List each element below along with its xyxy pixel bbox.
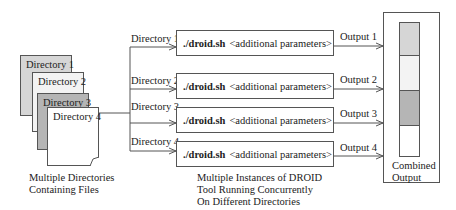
params-2: <additional parameters> [229,81,332,92]
command-4: ./droid.sh [183,149,225,160]
output-segment-2 [400,56,419,91]
directories-caption-line1: Multiple Directories [29,172,114,184]
combined-caption-line1: Combined [392,160,436,172]
params-3: <additional parameters> [229,115,332,126]
directory-2-label: Directory 2 [38,76,86,87]
output-label-3: Output 3 [340,108,377,120]
combined-caption-line2: Output [392,172,421,184]
output-segment-4 [400,126,419,156]
command-1: ./droid.sh [183,38,225,49]
output-segment-3 [400,91,419,126]
instances-caption-line2: Tool Running Concurrently [197,184,313,196]
output-stack [399,22,420,157]
directories-caption-line2: Containing Files [29,184,99,196]
command-2: ./droid.sh [183,81,225,92]
output-label-2: Output 2 [340,74,377,86]
input-label-3: Directory 3 [131,101,179,113]
input-label-2: Directory 2 [131,75,179,87]
command-3: ./droid.sh [183,115,225,126]
instances-caption-line3: On Different Directories [197,196,300,208]
droid-instance-2: ./droid.sh <additional parameters> [176,73,334,99]
page-curl-icon [90,157,99,166]
input-label-1: Directory 1 [131,33,179,45]
params-4: <additional parameters> [229,149,332,160]
directory-4-page: Directory 4 [47,107,99,166]
droid-instance-1: ./droid.sh <additional parameters> [176,30,334,56]
droid-instance-3: ./droid.sh <additional parameters> [176,107,334,133]
directory-4-label: Directory 4 [53,111,101,122]
directory-1-label: Directory 1 [26,59,74,70]
output-label-1: Output 1 [340,31,377,43]
droid-instance-4: ./droid.sh <additional parameters> [176,141,334,167]
input-label-4: Directory 4 [131,136,179,148]
combined-output-box: Combined Output [383,12,440,183]
params-1: <additional parameters> [229,38,332,49]
output-segment-1 [400,23,419,56]
instances-caption-line1: Multiple Instances of DROID [197,172,322,184]
output-label-4: Output 4 [340,142,377,154]
